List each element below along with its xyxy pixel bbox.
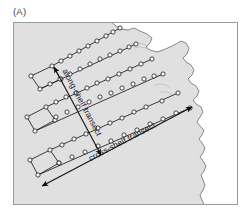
station-marker: [152, 74, 156, 78]
station-marker: [83, 150, 87, 154]
station-marker: [48, 82, 52, 86]
station-marker: [54, 100, 58, 104]
station-marker: [59, 59, 63, 63]
station-marker: [108, 121, 112, 125]
station-marker: [64, 95, 68, 99]
station-marker: [33, 129, 37, 133]
station-marker: [142, 77, 146, 81]
station-marker: [98, 57, 102, 61]
station-marker: [144, 105, 148, 109]
station-marker: [77, 49, 81, 53]
station-marker: [29, 74, 33, 78]
station-marker: [128, 67, 132, 71]
station-marker: [28, 158, 32, 162]
station-marker: [98, 95, 102, 99]
station-marker: [65, 110, 69, 114]
station-marker: [104, 34, 108, 38]
station-marker: [50, 64, 54, 68]
station-marker: [86, 44, 90, 48]
station-marker: [54, 115, 58, 119]
station-marker: [60, 143, 64, 147]
station-marker: [161, 117, 165, 121]
station-marker: [85, 86, 89, 90]
station-marker: [120, 86, 124, 90]
station-marker: [118, 49, 122, 53]
station-marker: [132, 110, 136, 114]
station-marker: [84, 132, 88, 136]
station-marker: [117, 72, 121, 76]
figure-panel-a: (A): [0, 0, 250, 219]
station-marker: [176, 91, 180, 95]
station-marker: [44, 105, 48, 109]
station-marker: [109, 91, 113, 95]
station-marker: [78, 67, 82, 71]
station-marker: [120, 116, 124, 120]
station-marker: [38, 87, 42, 91]
station-marker: [48, 148, 52, 152]
station-marker: [150, 57, 154, 61]
station-marker: [108, 53, 112, 57]
station-marker: [68, 54, 72, 58]
station-marker: [118, 26, 122, 30]
station-marker: [95, 39, 99, 43]
station-marker: [25, 115, 29, 119]
station-marker: [139, 62, 143, 66]
station-marker: [70, 155, 74, 159]
station-marker: [131, 82, 135, 86]
survey-map: along-shelf transect cross-shelf transec…: [0, 0, 250, 219]
station-marker: [161, 72, 165, 76]
station-marker: [95, 81, 99, 85]
station-marker: [36, 173, 40, 177]
station-marker: [134, 42, 138, 46]
station-marker: [72, 137, 76, 141]
station-marker: [57, 161, 61, 165]
station-marker: [106, 77, 110, 81]
station-marker: [111, 30, 115, 34]
station-marker: [88, 62, 92, 66]
station-marker: [160, 99, 164, 103]
station-marker: [127, 45, 131, 49]
